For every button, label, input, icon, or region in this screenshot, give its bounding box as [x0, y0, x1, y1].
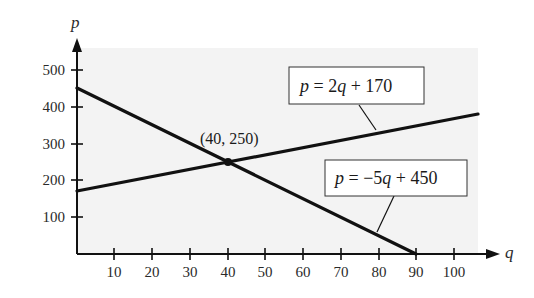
svg-text:20: 20: [145, 264, 160, 280]
svg-text:60: 60: [296, 264, 311, 280]
supply-equation: p = 2q + 170: [298, 76, 392, 96]
svg-text:50: 50: [258, 264, 273, 280]
svg-text:90: 90: [409, 264, 424, 280]
svg-text:200: 200: [43, 172, 66, 188]
intersection-point: [224, 158, 232, 166]
x-tick-labels: 10 20 30 40 50 60 70 80 90 100: [107, 264, 466, 280]
svg-text:300: 300: [43, 136, 66, 152]
y-tick-labels: 100 200 300 400 500: [43, 62, 66, 225]
svg-text:10: 10: [107, 264, 122, 280]
svg-text:80: 80: [372, 264, 387, 280]
svg-text:70: 70: [334, 264, 349, 280]
svg-text:500: 500: [43, 62, 66, 78]
demand-equation: p = −5q + 450: [333, 168, 437, 188]
x-axis-label: q: [505, 243, 514, 262]
y-axis-label: p: [70, 13, 80, 32]
svg-text:30: 30: [183, 264, 198, 280]
x-axis-arrow-icon: [486, 249, 500, 259]
svg-text:100: 100: [443, 264, 466, 280]
svg-text:400: 400: [43, 99, 66, 115]
chart: p q 100 200 300 400 500 10 20 30 40 50 6: [0, 0, 534, 298]
y-axis-arrow-icon: [72, 38, 82, 52]
svg-text:100: 100: [43, 209, 66, 225]
intersection-label: (40, 250): [200, 130, 259, 148]
svg-text:40: 40: [221, 264, 236, 280]
